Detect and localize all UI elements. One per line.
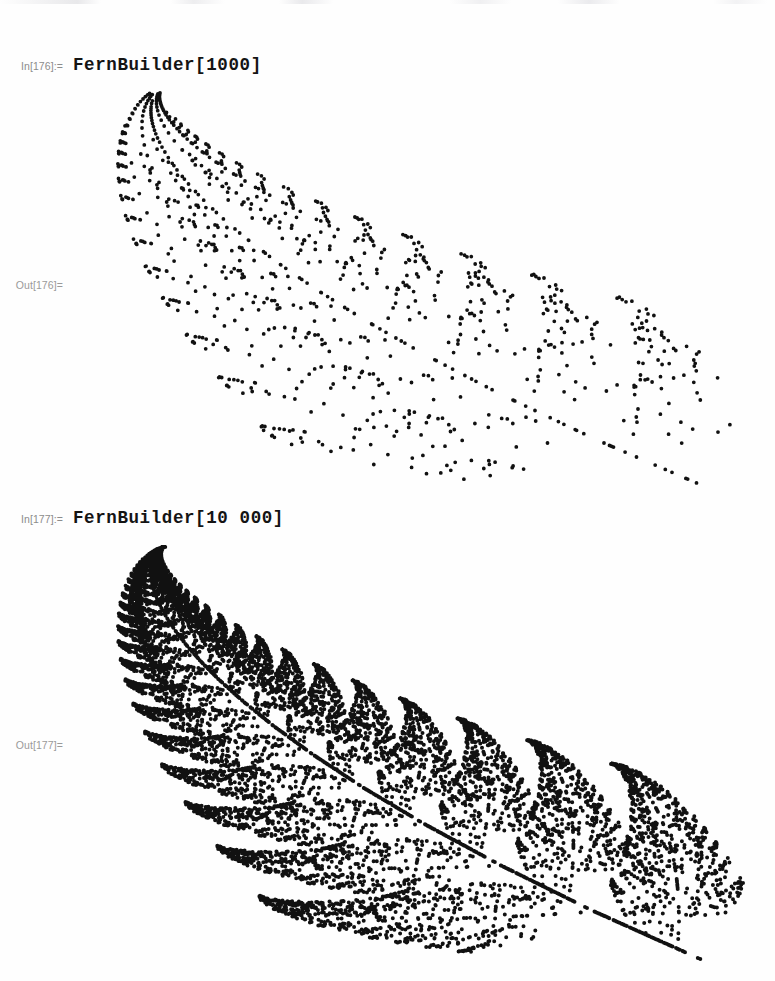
input-cell-176[interactable]: In[176]:= FernBuilder[1000] xyxy=(0,55,775,75)
out-label-177: Out[177]= xyxy=(0,739,63,751)
input-cell-177[interactable]: In[177]:= FernBuilder[10 000] xyxy=(0,508,775,528)
fern-scatter-svg xyxy=(113,88,735,488)
fern-scatter-svg xyxy=(113,542,748,964)
in-label-176: In[176]:= xyxy=(0,60,63,72)
fern-points-path xyxy=(116,91,732,485)
fern-plot-10000[interactable] xyxy=(113,542,748,964)
fern-points-path xyxy=(116,545,745,961)
out-label-176: Out[176]= xyxy=(0,279,63,291)
in-label-177: In[177]:= xyxy=(0,513,63,525)
notebook-canvas: In[176]:= FernBuilder[1000] Out[176]= In… xyxy=(0,0,775,981)
scan-noise-artifact xyxy=(0,0,775,4)
input-code-176[interactable]: FernBuilder[1000] xyxy=(73,55,262,75)
fern-plot-1000[interactable] xyxy=(113,88,735,488)
input-code-177[interactable]: FernBuilder[10 000] xyxy=(73,508,284,528)
